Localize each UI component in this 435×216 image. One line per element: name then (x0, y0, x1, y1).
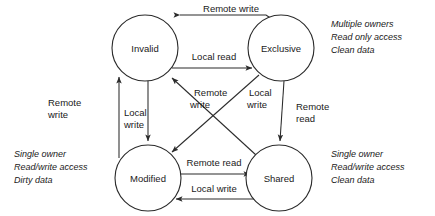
annotation-modified-line2: Read/write access (14, 162, 88, 172)
edge-modified-to-shared: Remote read (176, 157, 250, 174)
edge-label-shared-to-invalid-line2: write (189, 99, 210, 110)
edge-exclusive-to-shared: Remote read (280, 81, 329, 141)
edge-label-invalid-to-modified-line2: write (123, 119, 144, 130)
annotation-shared-line3: Clean data (331, 175, 375, 185)
state-label-exclusive: Exclusive (261, 43, 301, 54)
edge-invalid-to-exclusive: Local read (172, 51, 252, 68)
state-diagram: Remote write Local read Remote write Loc… (0, 0, 435, 216)
edge-label-invalid-to-exclusive: Local read (192, 51, 236, 62)
annotation-exclusive-line1: Multiple owners (331, 19, 394, 29)
edge-label-invalid-to-modified-line1: Local (124, 107, 147, 118)
edge-label-modified-to-shared: Remote read (187, 157, 242, 168)
state-node-invalid[interactable]: Invalid (112, 15, 178, 81)
edge-shared-to-invalid: Remote write (172, 78, 256, 155)
annotation-modified-line3: Dirty data (14, 175, 53, 185)
edge-label-exclusive-to-modified-line1: Local (249, 87, 272, 98)
state-node-shared[interactable]: Shared (246, 145, 312, 211)
edge-invalid-to-modified: Local write (123, 80, 148, 141)
state-node-exclusive[interactable]: Exclusive (248, 15, 314, 81)
state-label-shared: Shared (264, 173, 295, 184)
edge-label-exclusive-to-invalid: Remote write (203, 3, 259, 14)
edge-shared-to-modified: Local write (176, 183, 254, 199)
diagram-canvas: Remote write Local read Remote write Loc… (0, 0, 435, 216)
annotation-shared-note: Single owner Read/write access Clean dat… (331, 149, 405, 185)
edge-label-modified-to-invalid-line2: write (47, 109, 68, 120)
annotation-modified-line1: Single owner (14, 149, 67, 159)
edge-label-shared-to-invalid-line1: Remote (194, 87, 227, 98)
edge-label-shared-to-modified: Local write (191, 183, 236, 194)
state-node-modified[interactable]: Modified (115, 145, 181, 211)
annotation-exclusive-line3: Clean data (331, 45, 375, 55)
state-label-invalid: Invalid (131, 43, 158, 54)
annotation-exclusive-line2: Read only access (331, 32, 403, 42)
state-label-modified: Modified (130, 173, 166, 184)
edge-label-exclusive-to-shared-line2: read (296, 113, 315, 124)
edge-exclusive-to-invalid: Remote write (180, 3, 272, 19)
edge-label-modified-to-invalid-line1: Remote (48, 97, 81, 108)
edge-label-exclusive-to-modified-line2: write (246, 99, 267, 110)
edge-label-exclusive-to-shared-line1: Remote (296, 101, 329, 112)
annotation-shared-line2: Read/write access (331, 162, 405, 172)
annotation-modified-note: Single owner Read/write access Dirty dat… (14, 149, 88, 185)
annotation-shared-line1: Single owner (331, 149, 384, 159)
edge-modified-to-invalid: Remote write (47, 77, 119, 158)
annotation-exclusive-note: Multiple owners Read only access Clean d… (331, 19, 403, 55)
